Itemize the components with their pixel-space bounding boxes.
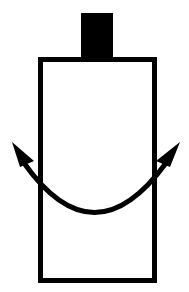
rotation-diagram: [0, 0, 189, 292]
top-cap: [81, 13, 113, 60]
